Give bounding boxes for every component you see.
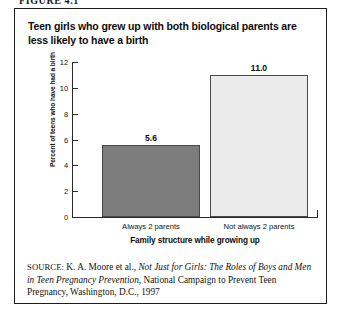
figure-box: Teen girls who grew up with both biologi… — [14, 8, 327, 304]
y-tick-label-2: 2 — [44, 187, 68, 196]
x-axis-line — [72, 217, 318, 218]
figure-title: Teen girls who grew up with both biologi… — [28, 20, 316, 47]
y-tick-label-10: 10 — [44, 84, 68, 93]
figure-number: FIGURE 4.1 — [19, 0, 79, 6]
source-note: SOURCE: K. A. Moore et al., Not Just for… — [27, 261, 317, 299]
y-tick-label-8: 8 — [44, 110, 68, 119]
bar-value-always-2-parents: 5.6 — [102, 133, 200, 143]
bar-not-always-2-parents — [210, 75, 308, 217]
x-axis-title: Family structure while growing up — [72, 236, 318, 245]
bar-always-2-parents — [102, 145, 200, 217]
y-tick-label-0: 0 — [44, 213, 68, 222]
source-label: SOURCE: — [27, 262, 64, 272]
y-tick-label-12: 12 — [44, 58, 68, 67]
x-category-label-not-always-2-parents: Not always 2 parents — [203, 222, 315, 231]
bar-value-not-always-2-parents: 11.0 — [210, 63, 308, 73]
source-text-before: K. A. Moore et al., — [64, 262, 138, 272]
bar-chart: Percent of teens who have had a birth 12… — [15, 54, 326, 254]
y-tick-label-6: 6 — [44, 136, 68, 145]
x-category-label-always-2-parents: Always 2 parents — [95, 222, 207, 231]
y-tick-label-4: 4 — [44, 161, 68, 170]
